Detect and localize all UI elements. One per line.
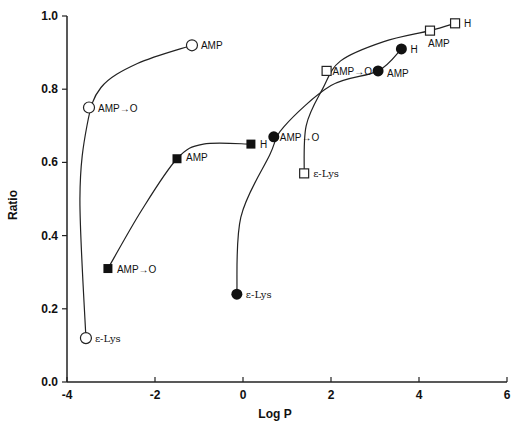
y-tick-label: 0.0	[41, 375, 58, 389]
point-label: AMP	[201, 40, 223, 51]
filled-circle-marker	[396, 43, 407, 54]
x-tick-label: 2	[328, 388, 335, 402]
y-tick-label: 0.2	[41, 302, 58, 316]
y-axis-title: Ratio	[6, 190, 20, 220]
y-tick-label: 1.0	[41, 9, 58, 23]
point-label: AMP	[428, 38, 450, 49]
filled-circle-marker	[231, 289, 242, 300]
x-tick-label: 6	[504, 388, 511, 402]
open-square-marker	[322, 66, 331, 75]
x-tick-label: -4	[62, 388, 73, 402]
filled-square-marker	[246, 140, 255, 149]
filled-square-marker	[103, 264, 112, 273]
point-label: H	[410, 44, 417, 55]
point-label: AMP	[186, 152, 208, 163]
open-circle-marker	[80, 333, 91, 344]
filled-square-marker	[173, 154, 182, 163]
x-tick-label: 4	[416, 388, 423, 402]
open-circle-marker	[186, 40, 197, 51]
point-label: H	[464, 18, 471, 29]
open-square-marker	[426, 26, 435, 35]
point-label: AMP→O	[98, 103, 138, 114]
point-label: AMP→O	[333, 66, 373, 77]
filled-circle-marker	[268, 131, 279, 142]
scatter-chart: -4-202460.00.20.40.60.81.0 ε-LysAMP→OAMP…	[0, 0, 521, 429]
point-label: AMP→O	[117, 264, 157, 275]
open-square-marker	[451, 19, 460, 28]
y-tick-label: 0.8	[41, 82, 58, 96]
open-circle-marker	[84, 102, 95, 113]
x-tick-label: -2	[150, 388, 161, 402]
x-tick-label: 0	[240, 388, 247, 402]
point-label: AMP→O	[280, 132, 320, 143]
x-axis-title: Log P	[258, 407, 291, 421]
point-label: H	[260, 139, 267, 150]
point-label: ε-Lys	[313, 168, 339, 179]
point-label: ε-Lys	[95, 333, 121, 344]
filled-circle-marker	[373, 65, 384, 76]
y-tick-label: 0.6	[41, 155, 58, 169]
data-points: ε-LysAMP→OAMPAMP→OAMPHε-LysAMP→OAMPHε-Ly…	[80, 18, 471, 344]
open-circles-curve	[80, 45, 192, 338]
y-tick-label: 0.4	[41, 229, 58, 243]
open-square-marker	[300, 169, 309, 178]
point-label: AMP	[387, 68, 409, 79]
point-label: ε-Lys	[246, 289, 272, 300]
